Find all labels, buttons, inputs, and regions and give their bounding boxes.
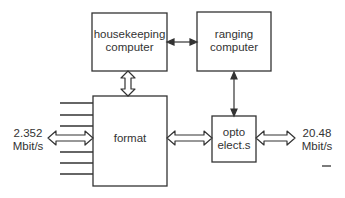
output-bus-arrow [256, 131, 295, 145]
housekeeping-format-bus-arrow [121, 71, 135, 96]
ranging-opto-arrow [231, 72, 237, 116]
output-rate-label: 20.48 Mbit/s [297, 127, 337, 153]
housekeeping-ranging-arrow [167, 39, 197, 45]
format-opto-bus-arrow [167, 131, 212, 145]
opto-electronics-label: opto elect.s [212, 126, 256, 152]
ranging-computer-label: ranging computer [197, 28, 271, 54]
input-rate-label: 2.352 Mbit/s [8, 127, 48, 153]
housekeeping-computer-label: housekeeping computer [92, 28, 167, 54]
input-bus-arrow [48, 131, 93, 145]
format-label: format [93, 132, 167, 145]
diagram-canvas [0, 0, 345, 198]
